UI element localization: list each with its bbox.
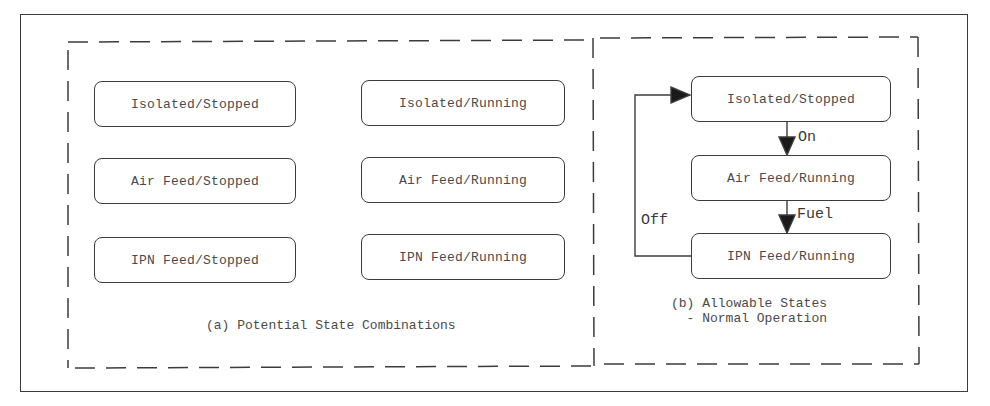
state-label: Air Feed/Stopped — [131, 174, 259, 189]
transition-fuel-arrow — [779, 200, 795, 233]
state-label: Isolated/Stopped — [131, 97, 259, 112]
allowed-state-isolated-stopped: Isolated/Stopped — [691, 76, 891, 122]
state-ipn-feed-stopped: IPN Feed/Stopped — [94, 237, 296, 283]
panel-b-caption-line2: - Normal Operation — [671, 311, 827, 326]
transition-on-label: On — [798, 129, 816, 146]
state-air-feed-running: Air Feed/Running — [361, 157, 565, 203]
panel-b-caption-line1: (b) Allowable States — [671, 296, 827, 311]
state-label: Air Feed/Running — [399, 173, 527, 188]
state-label: Isolated/Running — [399, 96, 527, 111]
transition-on-arrow — [779, 121, 795, 155]
panel-a-caption: (a) Potential State Combinations — [206, 318, 456, 333]
state-isolated-running: Isolated/Running — [361, 80, 565, 126]
state-ipn-feed-running: IPN Feed/Running — [361, 234, 565, 280]
state-isolated-stopped: Isolated/Stopped — [94, 81, 296, 127]
state-label: IPN Feed/Running — [727, 249, 855, 264]
transition-fuel-label: Fuel — [797, 206, 833, 223]
allowed-state-ipn-feed-running: IPN Feed/Running — [691, 233, 891, 279]
state-air-feed-stopped: Air Feed/Stopped — [94, 158, 296, 204]
transition-off-label: Off — [641, 212, 668, 229]
state-label: IPN Feed/Running — [399, 250, 527, 265]
transition-off-arrow — [635, 87, 691, 256]
allowed-state-air-feed-running: Air Feed/Running — [691, 155, 891, 201]
state-label: Air Feed/Running — [727, 171, 855, 186]
state-label: IPN Feed/Stopped — [131, 253, 259, 268]
state-label: Isolated/Stopped — [727, 92, 855, 107]
